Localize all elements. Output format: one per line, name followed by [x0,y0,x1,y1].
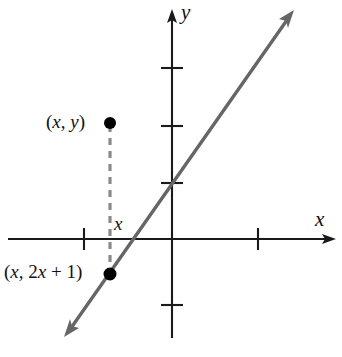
x-axis-label: x [315,209,324,230]
graph-canvas [0,0,342,357]
paren-close: ) [76,261,82,282]
point-marker-lower [104,268,117,281]
comma: , [61,111,71,132]
graph-figure: y x x (x, y) (x, 2x + 1) [0,0,342,357]
var-x: x [10,261,18,282]
upper-point-label: (x, y) [46,112,85,131]
var-y: y [70,111,78,132]
plotted-line [64,10,294,337]
lower-point-label: (x, 2x + 1) [4,262,82,281]
y-axis-label: y [181,2,190,23]
vertical-gap-label: x [114,214,122,233]
paren-close: ) [79,111,85,132]
var-x-second: x [38,261,46,282]
plus-one: + 1 [46,261,76,282]
comma-coefficient: , 2 [19,261,38,282]
point-marker-upper [104,117,116,129]
var-x: x [52,111,60,132]
